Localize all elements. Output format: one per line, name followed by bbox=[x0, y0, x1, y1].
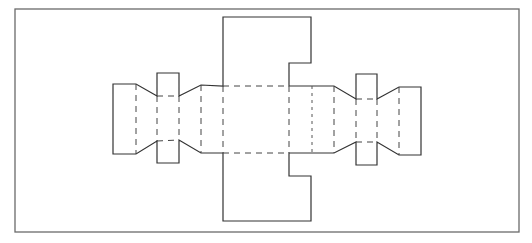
vertical-folds bbox=[136, 84, 399, 155]
diagram-frame bbox=[15, 9, 519, 232]
horizontal-folds bbox=[157, 86, 377, 153]
outer-cut-line bbox=[113, 17, 421, 221]
fold-left-tab-bottom bbox=[157, 140, 179, 141]
dieline-diagram bbox=[0, 0, 532, 243]
